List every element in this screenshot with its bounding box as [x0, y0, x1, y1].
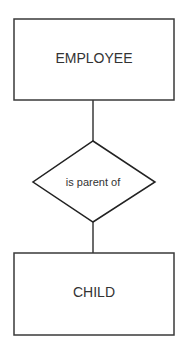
entity-employee: EMPLOYEE: [14, 19, 174, 100]
entity-child-label: CHILD: [73, 284, 115, 300]
relationship-label: is parent of: [66, 176, 121, 188]
relationship-is-parent-of: is parent of: [33, 141, 155, 222]
entity-employee-label: EMPLOYEE: [55, 50, 132, 66]
er-diagram-canvas: EMPLOYEE is parent of CHILD: [0, 0, 183, 353]
entity-child: CHILD: [14, 253, 174, 335]
